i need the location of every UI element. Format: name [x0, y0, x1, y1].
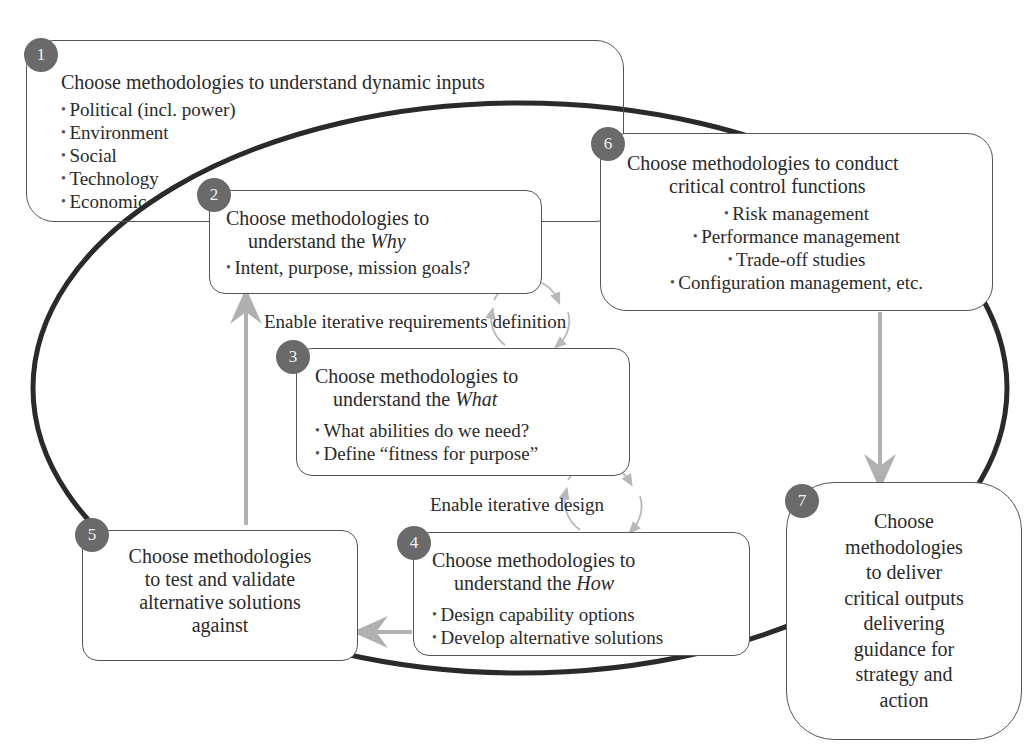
step-6-bullet: Risk management [609, 202, 984, 225]
step-7-box: Choose methodologies to deliver critical… [786, 482, 1022, 740]
step-4-badge: 4 [397, 526, 431, 560]
step-7-badge: 7 [785, 484, 819, 518]
step-4-bullet: Design capability options [432, 603, 749, 626]
step-6-bullet: Performance management [609, 225, 984, 248]
iterative-requirements-label: Enable iterative requirements definition [262, 311, 568, 333]
step-5-box: Choose methodologies to test and validat… [82, 530, 358, 661]
step-6-bullets: Risk management Performance management T… [609, 202, 984, 294]
step-7-title: Choose methodologies to deliver critical… [795, 509, 1013, 713]
step-3-badge: 3 [276, 340, 310, 374]
step-3-bullets: What abilities do we need? Define “fitne… [315, 419, 629, 465]
step-3-bullet: What abilities do we need? [315, 419, 629, 442]
step-1-bullet: Environment [61, 121, 623, 144]
step-4-bullets: Design capability options Develop altern… [432, 603, 749, 649]
step-6-bullet: Configuration management, etc. [609, 271, 984, 294]
step-4-bullet: Develop alternative solutions [432, 626, 749, 649]
step-6-box: Choose methodologies to conduct critical… [600, 133, 993, 311]
step-6-title: Choose methodologies to conduct critical… [609, 152, 984, 198]
step-3-title: Choose methodologies to understand the W… [315, 365, 629, 411]
step-3-bullet: Define “fitness for purpose” [315, 442, 629, 465]
step-5-badge: 5 [75, 518, 109, 552]
step-6-badge: 6 [591, 127, 625, 161]
step-6-bullet: Trade-off studies [609, 248, 984, 271]
methodology-diagram: Choose methodologies to understand dynam… [0, 0, 1036, 753]
step-3-box: Choose methodologies to understand the W… [296, 348, 630, 476]
step-4-box: Choose methodologies to understand the H… [413, 532, 750, 656]
iterative-design-label: Enable iterative design [428, 494, 606, 516]
step-1-bullet: Technology [61, 167, 623, 190]
step-2-box: Choose methodologies to understand the W… [209, 190, 542, 294]
step-1-bullet: Political (incl. power) [61, 98, 623, 121]
step-1-bullet: Social [61, 144, 623, 167]
step-1-title: Choose methodologies to understand dynam… [61, 71, 623, 94]
step-5-title: Choose methodologies to test and validat… [91, 545, 349, 637]
step-2-title: Choose methodologies to understand the W… [226, 207, 541, 253]
step-2-badge: 2 [197, 178, 231, 212]
step-1-badge: 1 [24, 38, 58, 72]
step-2-bullet: Intent, purpose, mission goals? [226, 256, 541, 279]
step-4-title: Choose methodologies to understand the H… [432, 549, 749, 595]
step-2-bullets: Intent, purpose, mission goals? [226, 256, 541, 279]
